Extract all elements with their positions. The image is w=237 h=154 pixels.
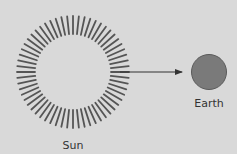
sun-icon [17,16,129,128]
sun-earth-diagram: Earth Sun [0,0,237,154]
earth-label: Earth [194,97,224,110]
sun-label: Sun [63,139,84,152]
earth-icon [192,55,227,90]
diagram-graphic [0,0,237,154]
